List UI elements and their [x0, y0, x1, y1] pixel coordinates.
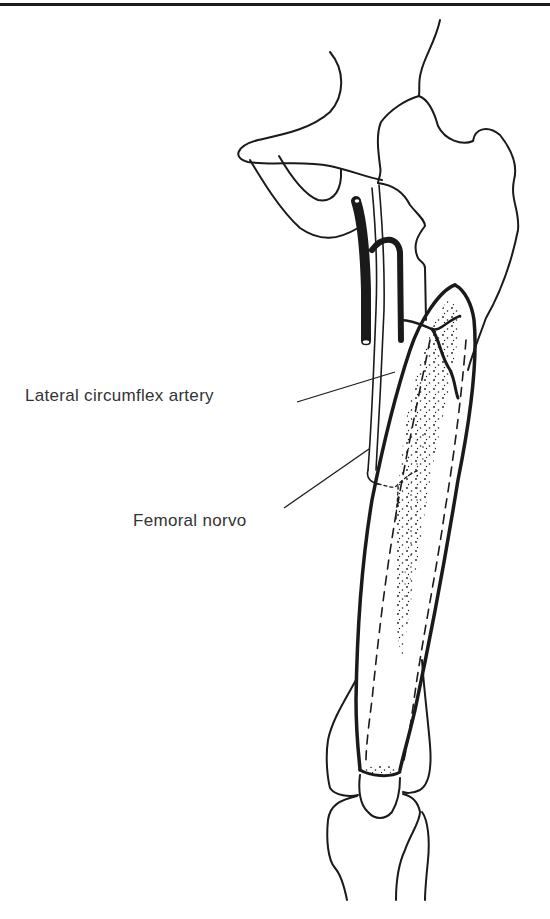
femoral-vessels: [354, 199, 401, 345]
figure-frame: Lateral circumflex artery Femoral norvo: [0, 0, 550, 919]
label-femoral-nerve: Femoral norvo: [133, 511, 247, 531]
tibia-fibula-outline: [327, 794, 428, 900]
leader-femoral-nerve: [284, 449, 369, 508]
patella: [359, 775, 400, 818]
anatomy-illustration: [0, 0, 550, 919]
label-lateral-circumflex-artery: Lateral circumflex artery: [25, 386, 214, 406]
